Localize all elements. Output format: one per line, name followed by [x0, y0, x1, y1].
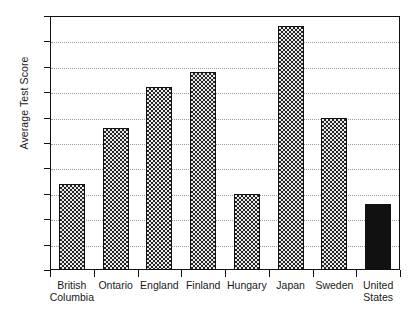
bar-slot	[225, 16, 269, 270]
bar-slot	[356, 16, 400, 270]
bar[interactable]	[190, 72, 216, 270]
x-tick-mark	[181, 270, 182, 277]
bar-chart: Average Test Score 303540455055606570758…	[0, 0, 411, 313]
x-tick-mark	[225, 270, 226, 277]
bar-slot	[94, 16, 138, 270]
bar[interactable]	[146, 87, 172, 270]
bars-group	[50, 16, 400, 270]
bar[interactable]	[278, 26, 304, 270]
x-tick-mark	[138, 270, 139, 277]
x-tick-mark	[50, 270, 51, 277]
x-category-label: United States	[350, 279, 406, 303]
x-tick-mark	[94, 270, 95, 277]
bar[interactable]	[103, 128, 129, 270]
bar[interactable]	[59, 184, 85, 270]
x-tick-mark	[313, 270, 314, 277]
bar-slot	[138, 16, 182, 270]
x-tick-mark	[400, 270, 401, 277]
bar-slot	[313, 16, 357, 270]
y-axis-title: Average Test Score	[18, 13, 30, 193]
x-tick-mark	[356, 270, 357, 277]
bar-slot	[181, 16, 225, 270]
x-tick-mark	[269, 270, 270, 277]
bar[interactable]	[365, 204, 391, 270]
bar-slot	[50, 16, 94, 270]
bar[interactable]	[321, 118, 347, 270]
bar-slot	[269, 16, 313, 270]
bar[interactable]	[234, 194, 260, 270]
